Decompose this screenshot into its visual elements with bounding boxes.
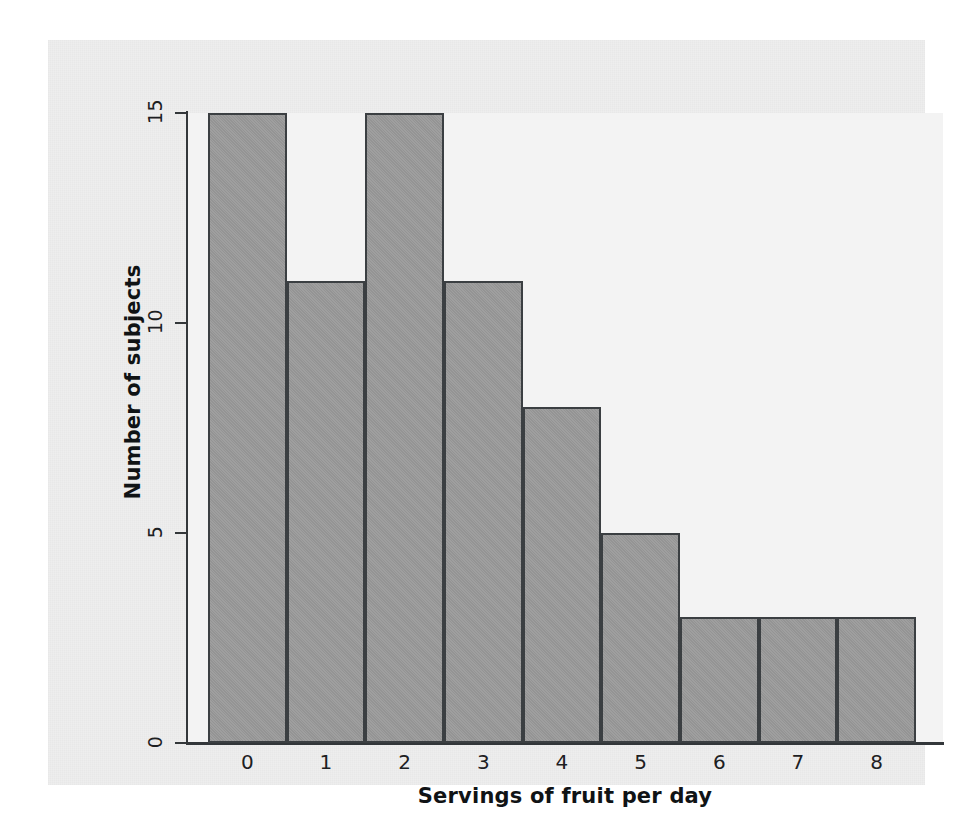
bar	[680, 617, 759, 743]
x-tick-label: 6	[680, 750, 759, 774]
x-tick-label: 4	[523, 750, 602, 774]
bar	[365, 113, 444, 743]
x-tick-label: 1	[287, 750, 366, 774]
y-tick-mark	[175, 112, 186, 114]
bar	[287, 281, 366, 743]
y-tick-label: 5	[144, 520, 166, 544]
x-tick-label: 7	[759, 750, 838, 774]
y-tick-label: 10	[144, 310, 166, 334]
x-tick-label: 8	[837, 750, 916, 774]
y-tick-mark	[175, 532, 186, 534]
figure-panel: 051015 012345678 Servings of fruit per d…	[48, 40, 925, 785]
bar	[444, 281, 523, 743]
x-tick-label: 0	[208, 750, 287, 774]
bar	[208, 113, 287, 743]
y-axis-title: Number of subjects	[121, 242, 145, 522]
y-tick-mark	[175, 742, 186, 744]
bar	[523, 407, 602, 743]
x-tick-label: 3	[444, 750, 523, 774]
x-tick-label: 2	[365, 750, 444, 774]
bar	[601, 533, 680, 743]
y-axis-line	[186, 111, 188, 745]
bar	[837, 617, 916, 743]
y-tick-label: 0	[144, 730, 166, 754]
bar	[759, 617, 838, 743]
x-axis-title: Servings of fruit per day	[186, 784, 944, 808]
y-tick-mark	[175, 322, 186, 324]
y-tick-label: 15	[144, 100, 166, 124]
x-tick-label: 5	[601, 750, 680, 774]
